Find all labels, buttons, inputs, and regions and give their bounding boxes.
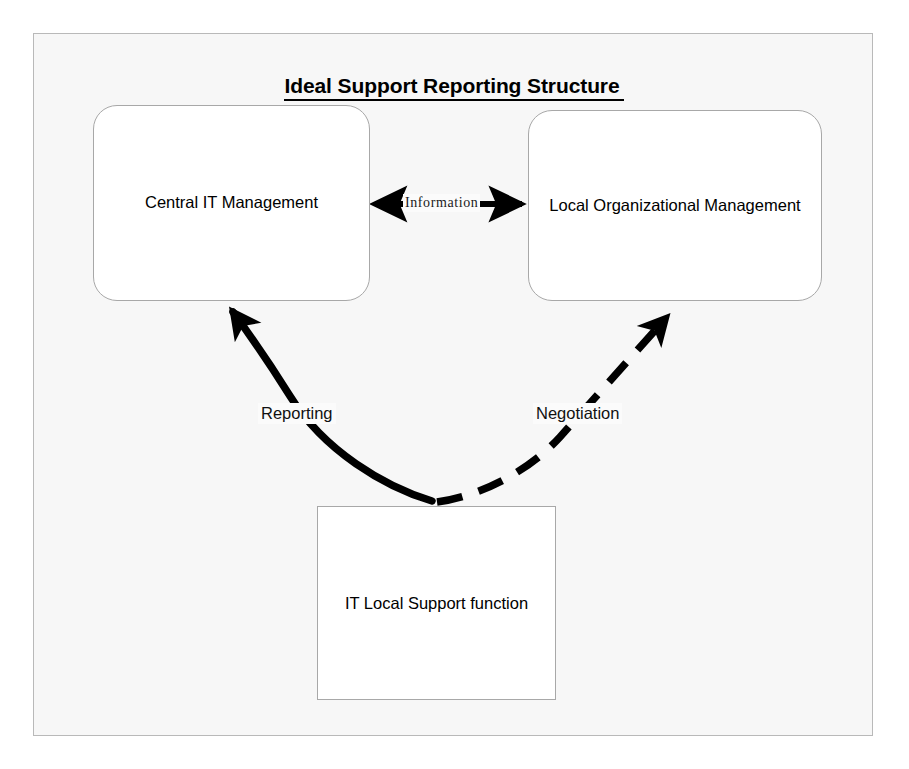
node-local-organizational-management[interactable]: Local Organizational Management <box>528 110 822 301</box>
page-title: Ideal Support Reporting Structure <box>34 74 874 101</box>
edge-label-reporting: Reporting <box>258 403 336 424</box>
node-label: IT Local Support function <box>345 594 528 614</box>
page-title-text: Ideal Support Reporting Structure <box>284 74 623 101</box>
node-label: Local Organizational Management <box>549 196 800 216</box>
node-central-it-management[interactable]: Central IT Management <box>93 105 370 301</box>
edge-label-information: Information <box>403 194 480 212</box>
node-label: Central IT Management <box>145 193 318 213</box>
edge-label-negotiation: Negotiation <box>533 403 622 424</box>
diagram-canvas: Ideal Support Reporting Structure <box>0 0 909 769</box>
node-it-local-support-function[interactable]: IT Local Support function <box>317 506 556 700</box>
